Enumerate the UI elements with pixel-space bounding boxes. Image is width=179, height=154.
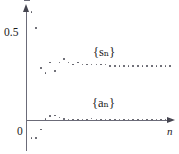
data-point <box>123 119 125 121</box>
data-point <box>63 58 65 60</box>
data-point <box>160 119 162 121</box>
data-point <box>49 115 51 117</box>
data-point <box>31 137 33 139</box>
data-point <box>109 65 111 67</box>
data-point <box>109 119 111 121</box>
data-point <box>146 65 148 67</box>
data-point <box>72 64 74 66</box>
data-point <box>31 11 33 13</box>
data-point <box>59 62 61 64</box>
data-point <box>156 65 158 67</box>
data-point <box>142 119 144 121</box>
data-point <box>77 119 79 121</box>
data-point <box>63 118 65 120</box>
data-point <box>128 65 130 67</box>
data-point <box>35 27 37 29</box>
data-point <box>119 119 121 121</box>
data-point <box>96 64 98 66</box>
data-point <box>119 65 121 67</box>
data-point <box>54 115 56 117</box>
data-point <box>49 62 51 64</box>
data-point <box>72 119 74 121</box>
data-point <box>137 65 139 67</box>
data-point <box>45 72 47 74</box>
data-point <box>86 64 88 66</box>
data-point <box>82 119 84 121</box>
data-point <box>91 64 93 66</box>
data-point <box>100 119 102 121</box>
data-point <box>169 119 171 121</box>
data-point <box>105 64 107 66</box>
data-point <box>137 119 139 121</box>
data-point <box>114 65 116 67</box>
data-point <box>165 65 167 67</box>
data-point <box>77 62 79 64</box>
data-point <box>160 65 162 67</box>
data-point <box>132 65 134 67</box>
data-point <box>35 137 37 139</box>
data-point <box>132 119 134 121</box>
data-point <box>68 119 70 121</box>
data-point <box>146 119 148 121</box>
data-point <box>100 64 102 66</box>
convergence-scatter-figure: 0.5 0 n {sₙ} {aₙ} <box>0 0 179 154</box>
data-point <box>105 119 107 121</box>
data-point <box>82 64 84 66</box>
plot-points-area <box>0 0 179 154</box>
data-point <box>59 117 61 119</box>
data-point <box>142 65 144 67</box>
data-point <box>151 65 153 67</box>
data-point <box>91 118 93 120</box>
data-point <box>156 119 158 121</box>
data-point <box>45 118 47 120</box>
data-point <box>123 65 125 67</box>
data-point <box>128 119 130 121</box>
data-point <box>169 65 171 67</box>
data-point <box>54 70 56 72</box>
data-point <box>40 129 42 131</box>
data-point <box>96 119 98 121</box>
data-point <box>68 62 70 64</box>
data-point <box>86 119 88 121</box>
data-point <box>40 67 42 69</box>
data-point <box>151 119 153 121</box>
data-point <box>114 119 116 121</box>
data-point <box>165 119 167 121</box>
